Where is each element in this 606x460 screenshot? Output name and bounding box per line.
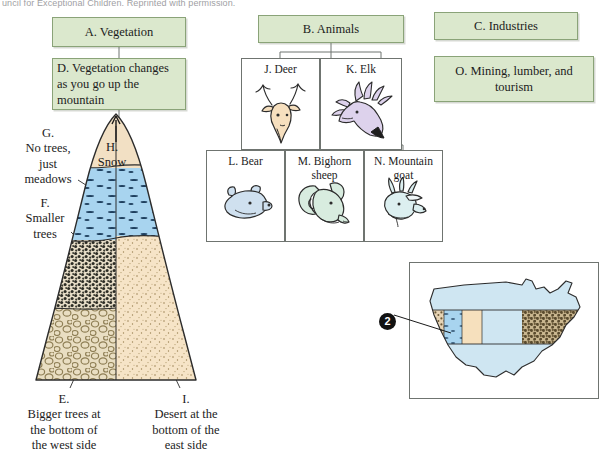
box-c-label: C. Industries bbox=[470, 18, 542, 34]
elk-head-icon bbox=[326, 79, 396, 145]
bighorn-sheep-head-icon bbox=[295, 177, 355, 229]
map-marker-2[interactable]: 2 bbox=[379, 313, 396, 330]
box-n-mountain-goat[interactable]: N. Mountain goat bbox=[364, 150, 443, 242]
worksheet-canvas: uncil for Exceptional Children. Reprinte… bbox=[0, 0, 606, 460]
deer-head-icon bbox=[250, 79, 312, 145]
map-band-eastern-forest bbox=[522, 310, 590, 344]
box-b-label: B. Animals bbox=[299, 21, 363, 37]
bigger-trees-band bbox=[18, 308, 116, 388]
box-o-label: O. Mining, lumber, and tourism bbox=[435, 63, 593, 95]
box-m-bighorn-sheep[interactable]: M. Bighorn sheep bbox=[285, 150, 364, 242]
callout-leader-line bbox=[393, 305, 453, 341]
mountain-label-i: I. Desert at the bottom of the east side bbox=[134, 392, 238, 453]
box-l-bear[interactable]: L. Bear bbox=[206, 150, 285, 242]
box-j-deer[interactable]: J. Deer bbox=[241, 58, 320, 150]
credit-line: uncil for Exceptional Children. Reprinte… bbox=[2, 0, 302, 9]
mountain-label-g: G. No trees, just meadows bbox=[6, 126, 90, 187]
box-k-elk[interactable]: K. Elk bbox=[320, 58, 402, 150]
box-a-label: A. Vegetation bbox=[81, 24, 158, 40]
box-j-label: J. Deer bbox=[242, 63, 319, 77]
box-o-mining-lumber-tourism[interactable]: O. Mining, lumber, and tourism bbox=[434, 56, 594, 102]
box-k-label: K. Elk bbox=[321, 63, 401, 77]
box-a-vegetation[interactable]: A. Vegetation bbox=[52, 17, 186, 47]
map-band-plains bbox=[482, 310, 522, 344]
mountain-label-f: F. Smaller trees bbox=[12, 196, 78, 242]
mountain-label-e: E. Bigger trees at the bottom of the wes… bbox=[6, 392, 122, 453]
box-b-animals[interactable]: B. Animals bbox=[258, 15, 404, 43]
bear-head-icon bbox=[217, 181, 275, 221]
box-d-label: D. Vegetation changes as you go up the m… bbox=[53, 60, 185, 108]
smaller-trees-band bbox=[18, 240, 116, 310]
map-band-desert bbox=[462, 310, 482, 344]
box-l-label: L. Bear bbox=[207, 155, 284, 169]
box-d-vegetation-changes[interactable]: D. Vegetation changes as you go up the m… bbox=[52, 58, 186, 110]
map-marker-2-label: 2 bbox=[384, 316, 390, 327]
mountain-goat-head-icon bbox=[376, 177, 432, 229]
mountain-label-h: H. Snow bbox=[88, 140, 136, 171]
box-c-industries[interactable]: C. Industries bbox=[434, 12, 578, 40]
